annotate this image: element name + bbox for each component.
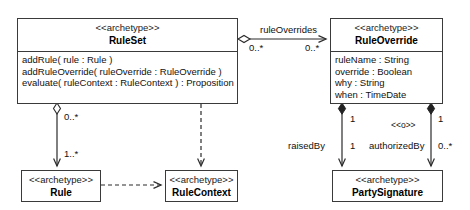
- edge-mult-raisedby-target: 1: [350, 140, 355, 151]
- class-header-rulecontext: <<archetype>> RuleContext: [166, 171, 237, 203]
- edge-ruleoverride-authorizedby-partysignature: [427, 103, 434, 166]
- class-name: RuleContext: [168, 186, 235, 199]
- stereotype-label: <<archetype>>: [333, 22, 440, 34]
- edge-mult-raisedby-source: 1: [350, 113, 355, 124]
- edge-mult-ruleset-override-target: 0..*: [305, 42, 319, 53]
- stereotype-label: <<archetype>>: [20, 22, 235, 34]
- edge-mult-ruleset-rule-source: 0..*: [64, 111, 78, 122]
- class-box-partysignature[interactable]: <<archetype>> PartySignature: [332, 170, 443, 202]
- class-box-ruleset[interactable]: <<archetype>> RuleSet addRule( rule : Ru…: [17, 18, 238, 104]
- edge-label-raisedby: raisedBy: [288, 140, 325, 151]
- edge-mult-authorizedby-source: 1: [438, 113, 443, 124]
- edge-label-ruleoverrides: ruleOverrides: [260, 24, 317, 35]
- edge-mult-authorizedby-target: 0..*: [438, 140, 452, 151]
- member-row: addRuleOverride( ruleOverride : RuleOver…: [22, 66, 233, 78]
- class-name: PartySignature: [335, 186, 440, 199]
- member-row: addRule( rule : Rule ): [22, 54, 233, 66]
- class-members-ruleoverride: ruleName : String override : Boolean why…: [331, 52, 442, 103]
- class-name: RuleOverride: [333, 34, 440, 47]
- member-row: override : Boolean: [335, 66, 438, 78]
- class-box-rulecontext[interactable]: <<archetype>> RuleContext: [165, 170, 238, 202]
- class-header-rule: <<archetype>> Rule: [22, 171, 100, 203]
- edge-stereotype-authorizedby: <<o>>: [391, 120, 416, 131]
- class-members-ruleset: addRule( rule : Rule ) addRuleOverride( …: [18, 52, 237, 92]
- edge-label-authorizedby: authorizedBy: [369, 140, 424, 151]
- class-name: RuleSet: [20, 34, 235, 47]
- member-row: ruleName : String: [335, 54, 438, 66]
- class-header-ruleset: <<archetype>> RuleSet: [18, 19, 237, 52]
- member-row: why : String: [335, 77, 438, 89]
- edge-mult-ruleset-override-source: 0..*: [249, 42, 263, 53]
- stereotype-label: <<archetype>>: [335, 174, 440, 186]
- class-header-partysignature: <<archetype>> PartySignature: [333, 171, 442, 203]
- stereotype-label: <<archetype>>: [24, 174, 98, 186]
- edge-mult-ruleset-rule-target: 1..*: [64, 148, 78, 159]
- class-header-ruleoverride: <<archetype>> RuleOverride: [331, 19, 442, 52]
- edge-ruleset-rule: [54, 103, 61, 166]
- class-box-ruleoverride[interactable]: <<archetype>> RuleOverride ruleName : St…: [330, 18, 443, 104]
- class-name: Rule: [24, 186, 98, 199]
- member-row: when : TimeDate: [335, 89, 438, 101]
- member-row: evaluate( ruleContext : RuleContext ) : …: [22, 77, 233, 89]
- class-box-rule[interactable]: <<archetype>> Rule: [21, 170, 101, 202]
- edge-ruleoverride-raisedby-partysignature: [338, 103, 345, 166]
- stereotype-label: <<archetype>>: [168, 174, 235, 186]
- uml-class-diagram: <<archetype>> RuleSet addRule( rule : Ru…: [0, 0, 470, 210]
